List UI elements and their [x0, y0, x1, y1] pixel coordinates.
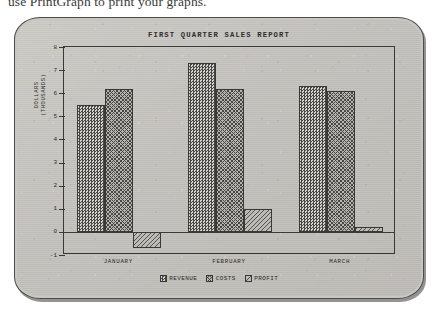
y-axis-title-line1: DOLLARS [33, 74, 40, 116]
chart-legend: REVENUECOSTSPROFIT [17, 275, 421, 282]
bars-layer [64, 47, 394, 253]
y-axis-tick-label: -1 [50, 252, 57, 259]
page-caption-text: use PrintGraph to print your graphs. [8, 0, 207, 10]
legend-item-costs: COSTS [206, 275, 236, 282]
y-axis-tick-label: 8 [53, 44, 57, 51]
crt-monitor: FIRST QUARTER SALES REPORT DOLLARS (THOU… [14, 17, 424, 299]
y-axis-tick-label: 0 [53, 228, 57, 235]
bar-revenue-february [188, 63, 216, 232]
y-axis-tick-label: 2 [53, 182, 57, 189]
legend-item-profit: PROFIT [245, 275, 279, 282]
x-axis-label-march: MARCH [284, 258, 395, 265]
page-caption-line: use PrintGraph to print your graphs. [0, 0, 438, 10]
bar-costs-march [327, 91, 355, 232]
plot-area: 876543210-1 [63, 46, 395, 254]
legend-item-revenue: REVENUE [160, 275, 198, 282]
y-axis-tick: -1 [59, 255, 65, 256]
y-axis-tick-label: 4 [53, 136, 57, 143]
x-axis-label-january: JANUARY [63, 258, 174, 265]
y-axis-title-line2: (THOUSANDS) [40, 74, 47, 116]
bar-profit-march [355, 227, 383, 232]
bar-revenue-january [77, 105, 105, 232]
legend-swatch-revenue [160, 275, 167, 282]
bar-costs-january [105, 89, 133, 232]
bar-costs-february [216, 89, 244, 232]
bar-profit-january [133, 232, 161, 248]
y-axis-tick-label: 7 [53, 67, 57, 74]
legend-swatch-profit [245, 275, 252, 282]
y-axis-tick-label: 6 [53, 90, 57, 97]
legend-label-revenue: REVENUE [169, 275, 197, 282]
x-axis-category-labels: JANUARYFEBRUARYMARCH [63, 258, 395, 270]
bar-profit-february [244, 209, 272, 232]
bar-revenue-march [299, 86, 327, 232]
y-axis-tick-label: 1 [53, 205, 57, 212]
legend-label-profit: PROFIT [254, 275, 278, 282]
x-axis-label-february: FEBRUARY [174, 258, 285, 265]
legend-label-costs: COSTS [216, 275, 236, 282]
y-axis-tick-label: 3 [53, 159, 57, 166]
monitor-screen: FIRST QUARTER SALES REPORT DOLLARS (THOU… [17, 20, 421, 296]
legend-swatch-costs [206, 275, 213, 282]
y-axis-tick-label: 5 [53, 113, 57, 120]
chart-title: FIRST QUARTER SALES REPORT [17, 31, 421, 39]
